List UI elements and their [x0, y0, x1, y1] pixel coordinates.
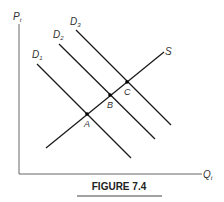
x-axis-label: Qt: [203, 169, 213, 181]
demand-curve-d2: [59, 44, 155, 139]
point-b-marker: [108, 93, 112, 97]
y-axis-label: Pt: [13, 11, 22, 23]
supply-demand-diagram: Pt Qt D1 D2 D3 S A B C FIGURE 7.4: [0, 0, 224, 202]
point-c-marker: [125, 80, 129, 84]
demand-label-d3: D3: [70, 16, 81, 28]
point-c-label: C: [124, 87, 131, 97]
supply-label: S: [165, 46, 172, 57]
point-b-label: B: [107, 100, 113, 110]
demand-label-d2: D2: [53, 29, 64, 41]
demand-curve-d3: [76, 30, 171, 125]
demand-label-d1: D1: [32, 49, 43, 61]
point-a-label: A: [83, 119, 90, 129]
figure-caption: FIGURE 7.4: [92, 181, 147, 192]
point-a-marker: [85, 112, 89, 116]
